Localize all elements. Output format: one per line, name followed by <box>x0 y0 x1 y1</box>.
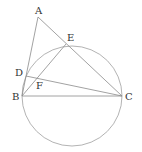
label-d: D <box>15 67 23 78</box>
label-b: B <box>12 91 19 102</box>
segment-be <box>22 44 66 96</box>
label-a: A <box>34 5 43 16</box>
geometry-diagram: A E D F B C <box>0 0 142 152</box>
label-c: C <box>125 91 133 102</box>
label-e: E <box>67 32 74 43</box>
label-f: F <box>36 80 43 91</box>
segment-ac <box>38 17 122 96</box>
